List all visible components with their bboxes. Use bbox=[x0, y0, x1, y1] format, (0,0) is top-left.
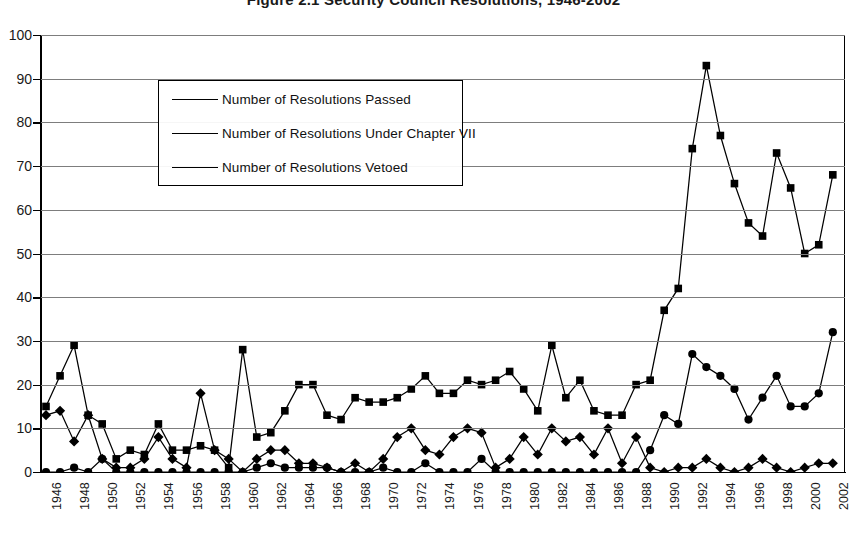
legend-item-passed[interactable]: Number of Resolutions Passed bbox=[172, 89, 411, 109]
circle-data-point bbox=[604, 468, 612, 472]
gridline bbox=[40, 254, 845, 255]
circle-data-point bbox=[562, 468, 570, 472]
square-data-point bbox=[379, 398, 387, 406]
y-axis-tick-label: 70 bbox=[0, 159, 32, 173]
diamond-data-point bbox=[645, 463, 655, 472]
y-tick-mark bbox=[33, 385, 41, 386]
circle-data-point bbox=[281, 464, 289, 472]
legend-item-chapter-vii[interactable]: Number of Resolutions Under Chapter VII bbox=[172, 123, 476, 143]
square-data-point bbox=[492, 376, 500, 384]
x-axis-tick-label: 1968 bbox=[360, 497, 373, 510]
circle-data-point bbox=[421, 459, 429, 467]
circle-data-point bbox=[660, 411, 668, 419]
x-axis-tick-label: 1980 bbox=[529, 497, 542, 510]
square-data-point bbox=[351, 394, 359, 402]
y-axis-tick-label: 90 bbox=[0, 72, 32, 86]
x-axis-tick-label: 1970 bbox=[388, 497, 401, 510]
diamond-data-point bbox=[350, 458, 360, 468]
page-title: Figure 2.1 Security Council Resolutions,… bbox=[0, 0, 867, 8]
diamond-data-point bbox=[701, 454, 711, 464]
square-data-point bbox=[759, 232, 767, 240]
diamond-data-point bbox=[828, 458, 838, 468]
diamond-data-point bbox=[786, 467, 796, 472]
x-axis-tick-label: 1962 bbox=[276, 497, 289, 510]
circle-data-point bbox=[56, 468, 64, 472]
square-data-point bbox=[70, 341, 78, 349]
diamond-data-point bbox=[195, 388, 205, 398]
circle-data-point bbox=[211, 468, 219, 472]
circle-data-point bbox=[646, 446, 654, 454]
circle-data-point bbox=[435, 468, 443, 472]
diamond-data-point bbox=[631, 432, 641, 442]
square-data-point bbox=[548, 341, 556, 349]
x-axis-tick-label: 1974 bbox=[444, 497, 457, 510]
circle-marker-icon bbox=[172, 126, 218, 140]
legend-label: Number of Resolutions Under Chapter VII bbox=[222, 126, 476, 141]
diamond-data-point bbox=[420, 445, 430, 455]
x-axis-tick-label: 1966 bbox=[332, 497, 345, 510]
legend-item-vetoed[interactable]: Number of Resolutions Vetoed bbox=[172, 157, 408, 177]
circle-data-point bbox=[70, 464, 78, 472]
square-data-point bbox=[56, 372, 64, 380]
legend-label: Number of Resolutions Passed bbox=[222, 92, 411, 107]
x-axis-tick-label: 2000 bbox=[810, 497, 823, 510]
x-axis-tick-label: 1946 bbox=[51, 497, 64, 510]
square-data-point bbox=[660, 307, 668, 315]
square-data-point bbox=[773, 149, 781, 157]
x-axis-tick-label: 1958 bbox=[220, 497, 233, 510]
circle-data-point bbox=[477, 455, 485, 463]
y-tick-mark bbox=[33, 35, 41, 36]
y-axis-tick-label: 60 bbox=[0, 203, 32, 217]
square-data-point bbox=[787, 184, 795, 192]
diamond-data-point bbox=[673, 463, 683, 472]
diamond-data-point bbox=[69, 436, 79, 446]
square-data-point bbox=[590, 407, 598, 415]
square-data-point bbox=[703, 62, 711, 70]
diamond-data-point bbox=[687, 463, 697, 472]
circle-data-point bbox=[702, 363, 710, 371]
diamond-data-point bbox=[266, 445, 276, 455]
diamond-data-point bbox=[167, 454, 177, 464]
circle-data-point bbox=[787, 402, 795, 410]
gridline bbox=[40, 428, 845, 429]
square-data-point bbox=[534, 407, 542, 415]
y-tick-mark bbox=[33, 428, 41, 429]
y-tick-mark bbox=[33, 472, 41, 473]
gridline bbox=[40, 210, 845, 211]
circle-data-point bbox=[520, 468, 528, 472]
square-data-point bbox=[618, 411, 626, 419]
circle-data-point bbox=[449, 468, 457, 472]
square-data-point bbox=[646, 376, 654, 384]
x-axis-tick-label: 1998 bbox=[782, 497, 795, 510]
x-axis-tick-label: 1950 bbox=[107, 497, 120, 510]
square-data-point bbox=[674, 285, 682, 293]
x-axis-tick-label: 1948 bbox=[79, 497, 92, 510]
diamond-data-point bbox=[659, 467, 669, 472]
y-tick-mark bbox=[33, 210, 41, 211]
x-axis-tick-label: 1984 bbox=[585, 497, 598, 510]
square-data-point bbox=[42, 403, 50, 411]
y-tick-mark bbox=[33, 341, 41, 342]
x-axis-tick-label: 1990 bbox=[669, 497, 682, 510]
circle-data-point bbox=[688, 350, 696, 358]
circle-data-point bbox=[379, 464, 387, 472]
x-axis-tick-label: 1994 bbox=[725, 497, 738, 510]
square-data-point bbox=[239, 346, 247, 354]
square-data-point bbox=[112, 455, 120, 463]
y-axis-tick-label: 100 bbox=[0, 28, 32, 42]
diamond-data-point bbox=[743, 463, 753, 472]
circle-data-point bbox=[576, 468, 584, 472]
circle-data-point bbox=[773, 372, 781, 380]
series-line bbox=[46, 393, 833, 472]
square-data-point bbox=[155, 420, 163, 428]
square-marker-icon bbox=[172, 92, 218, 106]
square-data-point bbox=[98, 420, 106, 428]
circle-data-point bbox=[351, 468, 359, 472]
square-data-point bbox=[576, 376, 584, 384]
diamond-data-point bbox=[729, 467, 739, 472]
circle-data-point bbox=[548, 468, 556, 472]
square-data-point bbox=[562, 394, 570, 402]
circle-data-point bbox=[534, 468, 542, 472]
y-axis-tick-label: 30 bbox=[0, 334, 32, 348]
square-data-point bbox=[365, 398, 373, 406]
